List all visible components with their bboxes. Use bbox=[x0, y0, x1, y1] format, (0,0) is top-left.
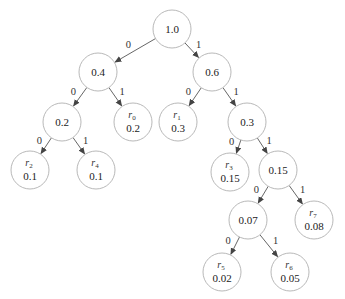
leaf-node: r20.1 bbox=[11, 151, 49, 189]
tree-edge: 1 bbox=[73, 135, 88, 154]
edge-bit-label: 0 bbox=[71, 86, 76, 97]
tree-edge: 1 bbox=[109, 86, 125, 106]
node-probability: 0.15 bbox=[268, 164, 288, 176]
edge-bit-label: 1 bbox=[267, 135, 272, 146]
node-probability: 1.0 bbox=[165, 23, 179, 35]
node-probability: 0.1 bbox=[89, 170, 103, 182]
internal-node: 0.15 bbox=[259, 151, 297, 189]
tree-edge: 1 bbox=[185, 39, 201, 57]
leaf-node: r70.08 bbox=[295, 201, 333, 239]
edge-arrow bbox=[41, 138, 51, 154]
nodes-layer: 1.00.40.60.2r00.2r10.30.3r20.1r40.1r30.1… bbox=[11, 10, 333, 291]
tree-edge: 0 bbox=[186, 86, 202, 106]
leaf-node: r40.1 bbox=[77, 151, 115, 189]
edge-bit-label: 0 bbox=[126, 39, 131, 50]
node-probability: 0.15 bbox=[220, 172, 240, 184]
edge-bit-label: 0 bbox=[226, 235, 231, 246]
edge-bit-label: 0 bbox=[229, 136, 234, 147]
leaf-node: r10.3 bbox=[159, 103, 197, 141]
edge-bit-label: 1 bbox=[83, 135, 88, 146]
edge-bit-label: 0 bbox=[37, 135, 42, 146]
tree-edge: 1 bbox=[260, 235, 278, 257]
edge-bit-label: 1 bbox=[300, 184, 305, 195]
node-probability: 0.07 bbox=[238, 214, 258, 226]
edge-arrow bbox=[231, 237, 240, 254]
node-probability: 0.1 bbox=[23, 170, 37, 182]
node-probability: 0.3 bbox=[171, 122, 185, 134]
tree-edge: 0 bbox=[37, 135, 52, 154]
tree-svg: 01010101010101 1.00.40.60.2r00.2r10.30.3… bbox=[0, 0, 345, 299]
tree-edge: 0 bbox=[226, 235, 240, 255]
leaf-node: r60.05 bbox=[271, 253, 309, 291]
edge-bit-label: 1 bbox=[234, 86, 239, 97]
node-probability: 0.02 bbox=[212, 272, 231, 284]
huffman-tree-diagram: 01010101010101 1.00.40.60.2r00.2r10.30.3… bbox=[0, 0, 345, 299]
edge-arrow bbox=[115, 39, 155, 62]
node-probability: 0.05 bbox=[280, 272, 300, 284]
edge-arrow bbox=[189, 88, 201, 106]
internal-node: 0.6 bbox=[193, 53, 231, 91]
edge-bit-label: 1 bbox=[120, 86, 125, 97]
tree-edge: 0 bbox=[254, 184, 269, 203]
edge-arrow bbox=[258, 186, 268, 203]
leaf-node: r00.2 bbox=[114, 103, 152, 141]
edge-bit-label: 0 bbox=[186, 86, 191, 97]
internal-node: 0.4 bbox=[79, 53, 117, 91]
leaf-node: r50.02 bbox=[203, 253, 241, 291]
edge-bit-label: 1 bbox=[273, 235, 278, 246]
node-probability: 0.2 bbox=[55, 116, 69, 128]
tree-edge: 1 bbox=[257, 135, 272, 154]
tree-edge: 0 bbox=[115, 39, 155, 62]
edge-bit-label: 0 bbox=[254, 184, 259, 195]
node-probability: 0.08 bbox=[304, 220, 324, 232]
tree-edge: 1 bbox=[289, 184, 305, 204]
edge-arrow bbox=[236, 140, 240, 153]
internal-node: 0.07 bbox=[229, 201, 267, 239]
node-probability: 0.4 bbox=[91, 66, 105, 78]
internal-node: 0.2 bbox=[43, 103, 81, 141]
node-probability: 0.6 bbox=[205, 66, 219, 78]
leaf-node: r30.15 bbox=[211, 153, 249, 191]
tree-edge: 1 bbox=[223, 86, 239, 106]
internal-node: 1.0 bbox=[153, 10, 191, 48]
internal-node: 0.3 bbox=[228, 103, 266, 141]
edge-bit-label: 1 bbox=[196, 39, 201, 50]
node-probability: 0.2 bbox=[126, 122, 140, 134]
node-probability: 0.3 bbox=[240, 116, 254, 128]
tree-edge: 0 bbox=[71, 86, 87, 106]
